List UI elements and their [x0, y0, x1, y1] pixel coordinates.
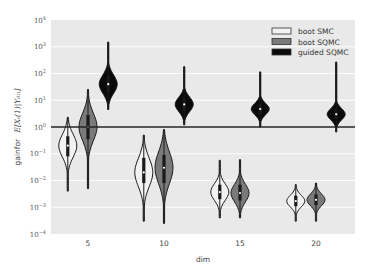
violin-median	[143, 171, 145, 173]
y-tick-label: 10−4	[30, 229, 46, 239]
x-tick-label: 20	[311, 239, 321, 248]
y-tick-label: 103	[34, 41, 46, 51]
y-tick-label: 10−3	[30, 202, 46, 212]
x-tick-label: 15	[235, 239, 245, 248]
legend-swatch	[272, 39, 291, 45]
legend-label: guided SQMC	[298, 48, 349, 57]
y-tick-label: 10−2	[30, 175, 46, 185]
legend-swatch	[272, 28, 291, 34]
legend-label: boot SMC	[298, 27, 334, 36]
y-axis-label-prefix: gainfor	[13, 138, 22, 165]
violin-median	[315, 199, 317, 201]
y-axis-label-math: E[Xₜ(1)|Y₀:ₜ]	[13, 88, 22, 133]
y-tick-label: 100	[34, 122, 46, 132]
violin-median	[219, 191, 221, 193]
y-tick-label: 102	[34, 68, 46, 78]
x-tick-label: 5	[86, 239, 91, 248]
svg-text:gainfor E[Xₜ(1)|Y₀:ₜ]: gainfor E[Xₜ(1)|Y₀:ₜ]	[13, 88, 22, 165]
x-axis-label: dim	[196, 255, 210, 264]
violin-median	[183, 103, 185, 105]
violin-median	[259, 108, 261, 110]
violin-chart: 10410310210110010−110−210−310−4 5101520 …	[0, 0, 367, 275]
violin-iqr-box	[142, 158, 145, 183]
legend-label: boot SQMC	[298, 38, 340, 47]
y-tick-label: 104	[34, 15, 46, 25]
violin-median	[239, 192, 241, 194]
legend-swatch	[272, 49, 291, 55]
y-axis-ticks: 10410310210110010−110−210−310−4	[30, 15, 46, 239]
y-axis-label: gainfor E[Xₜ(1)|Y₀:ₜ]	[13, 88, 22, 165]
violin-iqr-box	[162, 155, 165, 183]
violin-median	[163, 167, 165, 169]
x-axis-ticks: 5101520	[86, 239, 321, 248]
violin-median	[107, 83, 109, 85]
y-tick-label: 101	[34, 95, 46, 105]
violin-median	[335, 113, 337, 115]
violin-median	[67, 145, 69, 147]
y-tick-label: 10−1	[30, 148, 46, 158]
x-tick-label: 10	[159, 239, 169, 248]
violin-median	[295, 200, 297, 202]
